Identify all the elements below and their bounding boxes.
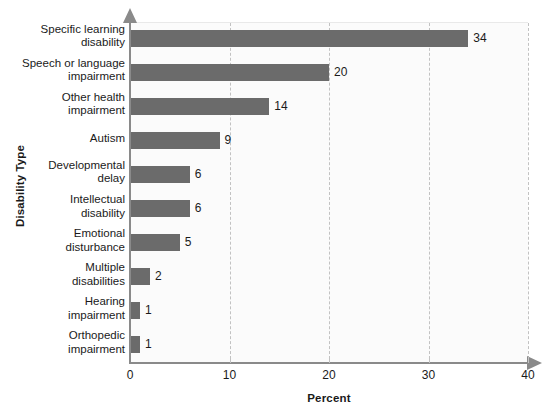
bar-value-label: 34 <box>473 30 486 47</box>
category-label: Emotionaldisturbance <box>5 227 125 254</box>
category-label-line: Multiple <box>5 261 125 275</box>
category-label: Intellectualdisability <box>5 193 125 220</box>
bar <box>130 98 269 115</box>
category-label-line: Emotional <box>5 227 125 241</box>
category-label-line: Other health <box>5 91 125 105</box>
category-label-line: Specific learning <box>5 23 125 37</box>
category-label: Orthopedicimpairment <box>5 329 125 356</box>
category-label-line: impairment <box>5 104 125 118</box>
category-label-line: Developmental <box>5 159 125 173</box>
bar-value-label: 1 <box>145 302 152 319</box>
bar-chart: Disability Type 3420149665211 Specific l… <box>0 0 554 417</box>
x-tick-label-10: 10 <box>210 368 250 382</box>
y-axis-arrow-icon <box>123 8 137 23</box>
bar <box>130 302 140 319</box>
category-label-line: impairment <box>5 309 125 323</box>
bar <box>130 234 180 251</box>
bar <box>130 268 150 285</box>
bar <box>130 336 140 353</box>
x-tick-label-40: 40 <box>508 368 548 382</box>
category-label-line: Hearing <box>5 295 125 309</box>
bar-value-label: 5 <box>185 234 192 251</box>
bar <box>130 64 329 81</box>
category-label-line: Autism <box>5 132 125 146</box>
category-label-line: Orthopedic <box>5 329 125 343</box>
bar-value-label: 1 <box>145 336 152 353</box>
plot-area: 3420149665211 <box>130 22 528 364</box>
bar <box>130 132 220 149</box>
x-tick-mark-30 <box>429 357 430 363</box>
bar-value-label: 9 <box>225 132 232 149</box>
category-label-line: delay <box>5 172 125 186</box>
category-label-line: disability <box>5 207 125 221</box>
x-tick-mark-10 <box>230 357 231 363</box>
x-tick-label-20: 20 <box>309 368 349 382</box>
category-label: Autism <box>5 132 125 146</box>
category-label-line: impairment <box>5 343 125 357</box>
category-label: Developmentaldelay <box>5 159 125 186</box>
bar <box>130 30 468 47</box>
x-tick-mark-20 <box>329 357 330 363</box>
x-axis-title: Percent <box>130 392 528 404</box>
bar <box>130 200 190 217</box>
x-tick-label-30: 30 <box>409 368 449 382</box>
bar <box>130 166 190 183</box>
gridline-30 <box>429 23 430 364</box>
category-label-line: impairment <box>5 70 125 84</box>
bar-value-label: 6 <box>195 166 202 183</box>
category-label-line: Intellectual <box>5 193 125 207</box>
category-label: Other healthimpairment <box>5 91 125 118</box>
gridline-40 <box>528 23 529 364</box>
category-label-line: disturbance <box>5 241 125 255</box>
gridline-20 <box>329 23 330 364</box>
bar-value-label: 6 <box>195 200 202 217</box>
category-label: Specific learningdisability <box>5 23 125 50</box>
category-label: Speech or languageimpairment <box>5 57 125 84</box>
category-label-line: Speech or language <box>5 57 125 71</box>
category-label-line: disabilities <box>5 275 125 289</box>
x-tick-mark-40 <box>528 357 529 363</box>
bar-value-label: 2 <box>155 268 162 285</box>
bar-value-label: 20 <box>334 64 347 81</box>
x-tick-label-0: 0 <box>110 368 150 382</box>
y-axis-category-labels: Specific learningdisabilitySpeech or lan… <box>0 0 125 417</box>
y-axis-line <box>129 22 131 363</box>
category-label-line: disability <box>5 36 125 50</box>
category-label: Hearingimpairment <box>5 295 125 322</box>
bar-value-label: 14 <box>274 98 287 115</box>
category-label: Multipledisabilities <box>5 261 125 288</box>
